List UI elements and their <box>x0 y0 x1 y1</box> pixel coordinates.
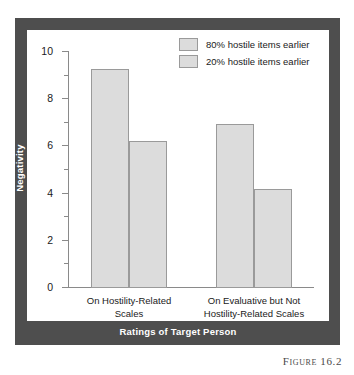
plot-panel: 80% hostile items earlier 20% hostile it… <box>27 30 329 321</box>
y-axis-tick-label: 4 <box>47 187 53 199</box>
bar <box>129 141 167 288</box>
x-axis-group-label-line: Scales <box>67 307 191 320</box>
legend-item-label: 80% hostile items earlier <box>206 39 310 50</box>
x-axis-group-label: On Hostility-RelatedScales <box>67 294 191 320</box>
y-axis-tick-label: 0 <box>47 281 53 293</box>
y-axis-tick: 4 <box>62 193 69 194</box>
y-axis-tick: 10 <box>62 51 69 52</box>
y-axis-tick: 2 <box>62 240 69 241</box>
y-axis-minor-tick <box>64 216 69 217</box>
x-axis-group-label: On Evaluative but NotHostility-Related S… <box>192 294 316 320</box>
y-axis-tick: 8 <box>62 98 69 99</box>
y-axis-title: Negativity <box>14 113 26 223</box>
legend-swatch-icon <box>179 38 198 51</box>
y-axis-tick: 6 <box>62 145 69 146</box>
y-axis-tick-label: 10 <box>41 45 53 57</box>
bar <box>91 69 129 288</box>
y-axis-minor-tick <box>64 263 69 264</box>
y-axis-minor-tick <box>64 169 69 170</box>
bar <box>254 189 292 288</box>
figure-frame: Negativity 80% hostile items earlier 20%… <box>15 18 340 345</box>
y-axis-tick-label: 8 <box>47 92 53 104</box>
y-axis-minor-tick <box>64 75 69 76</box>
x-axis-group-label-line: Hostility-Related Scales <box>192 307 316 320</box>
y-axis-minor-tick <box>64 122 69 123</box>
x-axis-title: Ratings of Target Person <box>27 323 329 341</box>
bar <box>216 124 254 288</box>
y-axis-tick-label: 6 <box>47 139 53 151</box>
plot-area: 0246810 On Hostility-RelatedScalesOn Eva… <box>68 51 313 287</box>
y-axis-tick-label: 2 <box>47 234 53 246</box>
y-axis-tick: 0 <box>62 287 69 288</box>
x-axis-group-label-line: On Hostility-Related <box>67 294 191 307</box>
legend-item: 80% hostile items earlier <box>179 38 327 51</box>
x-axis-group-label-line: On Evaluative but Not <box>192 294 316 307</box>
figure-caption: Figure 16.2 <box>283 355 342 367</box>
